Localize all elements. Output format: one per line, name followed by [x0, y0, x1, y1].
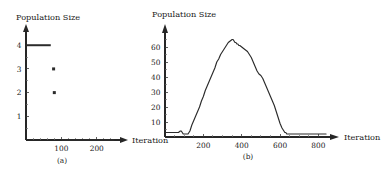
chart-a-series	[26, 45, 114, 140]
chart-a-y-tick-label: 3	[17, 65, 22, 74]
figure-root: Population Size 1002001234 Iteration (a)…	[0, 0, 392, 177]
chart-a-y-tick-label: 1	[17, 112, 22, 121]
chart-b-caption: (b)	[243, 152, 254, 161]
chart-a-x-tick-label: 200	[90, 144, 104, 153]
chart-a-axes	[23, 24, 128, 143]
chart-b-series	[165, 40, 326, 135]
chart-b-axes	[162, 24, 339, 140]
chart-panel-b: Population Size 200400600800102030405060…	[140, 0, 392, 177]
chart-a-x-tick-label: 100	[54, 144, 68, 153]
chart-a-caption: (a)	[57, 156, 67, 165]
chart-b-x-tick-label: 400	[235, 141, 249, 150]
chart-b-series-path	[165, 40, 326, 135]
chart-b-y-axis-arrow	[162, 24, 168, 33]
chart-b-svg: Population Size 200400600800102030405060…	[140, 0, 392, 177]
chart-a-y-tick-label: 4	[17, 41, 22, 50]
chart-a-data-point	[53, 91, 56, 94]
chart-a-data-point	[52, 67, 55, 70]
chart-b-y-axis-title: Population Size	[152, 9, 216, 19]
chart-a-x-axis-arrow	[120, 137, 128, 143]
chart-b-y-tick-label: 60	[151, 43, 161, 52]
chart-b-x-tick-label: 600	[273, 141, 287, 150]
chart-b-y-tick-label: 20	[151, 103, 161, 112]
chart-a-y-axis-title: Population Size	[16, 12, 80, 22]
chart-b-y-tick-label: 40	[151, 73, 161, 82]
chart-b-x-axis-title: Iteration	[344, 132, 381, 142]
chart-a-y-axis-arrow	[23, 24, 29, 32]
chart-a-tick-labels: 1002001234	[17, 41, 104, 153]
chart-b-y-tick-label: 30	[151, 88, 161, 97]
chart-b-y-tick-label: 10	[151, 118, 161, 127]
chart-b-x-axis-arrow	[330, 134, 339, 140]
chart-b-x-tick-label: 200	[196, 141, 210, 150]
chart-b-y-tick-label: 50	[151, 58, 161, 67]
chart-b-ticks	[165, 40, 318, 138]
chart-a-y-tick-label: 2	[17, 88, 22, 97]
chart-a-ticks	[26, 45, 111, 140]
chart-b-x-tick-label: 800	[311, 141, 325, 150]
chart-a-svg: Population Size 1002001234 Iteration (a)	[0, 0, 150, 177]
chart-panel-a: Population Size 1002001234 Iteration (a)	[0, 0, 150, 177]
